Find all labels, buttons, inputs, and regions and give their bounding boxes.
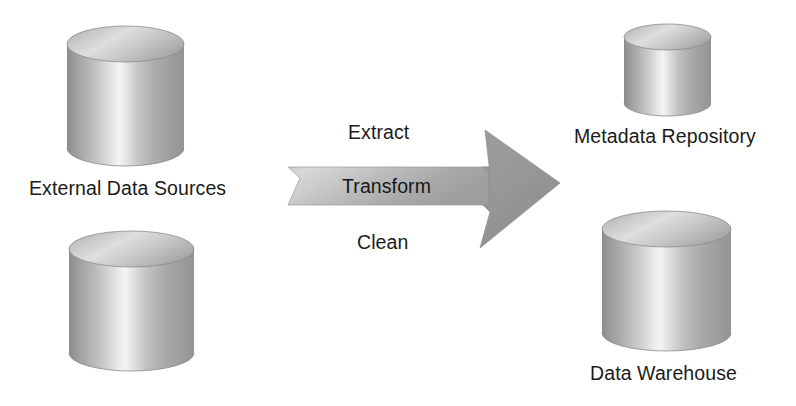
cylinder-top-ellipse — [624, 24, 711, 50]
data-warehouse-cylinder — [602, 211, 731, 351]
data-warehouse-label: Data Warehouse — [590, 362, 737, 385]
external-data-sources-label: External Data Sources — [29, 177, 226, 200]
metadata-repository-label: Metadata Repository — [574, 125, 756, 148]
external-data-source-cylinder-lower — [69, 231, 194, 371]
etl-diagram-canvas: External Data Sources Metadata Repositor… — [0, 0, 796, 406]
clean-step-label: Clean — [357, 231, 408, 254]
cylinder-top-ellipse — [69, 231, 194, 267]
transform-step-label: Transform — [342, 175, 431, 198]
metadata-repository-cylinder — [624, 24, 711, 116]
arrow-head — [480, 130, 560, 248]
external-data-source-cylinder-upper — [67, 26, 184, 166]
cylinder-top-ellipse — [67, 26, 184, 62]
extract-step-label: Extract — [348, 121, 409, 144]
cylinder-top-ellipse — [602, 211, 731, 247]
